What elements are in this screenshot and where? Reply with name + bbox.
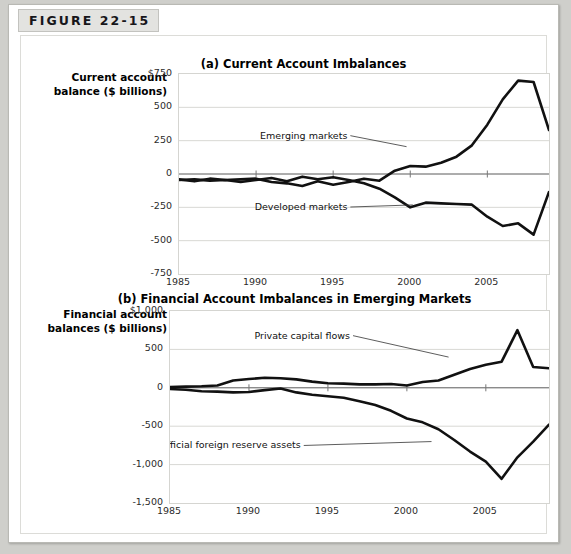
figure-inner-frame: (a) Current Account Imbalances Current a… — [20, 35, 547, 534]
chart-a-y-tick: 250 — [112, 134, 172, 145]
chart-a-x-tick: 1990 — [229, 276, 281, 287]
chart-panel-b: (b) Financial Account Imbalances in Emer… — [21, 290, 546, 533]
chart-a-x-tick: 1995 — [306, 276, 358, 287]
chart-b-x-tick: 2000 — [380, 505, 432, 516]
figure-tab: FIGURE 22-15 — [18, 9, 159, 32]
chart-b-y-tick: $1,000 — [103, 304, 163, 315]
chart-a-y-tick: -250 — [112, 200, 172, 211]
chart-b-plot-area: Private capital flowsOfficial foreign re… — [169, 310, 550, 504]
chart-a-x-tick: 2000 — [383, 276, 435, 287]
chart-a-svg: Emerging marketsDeveloped markets — [179, 74, 549, 274]
chart-b-svg: Private capital flowsOfficial foreign re… — [170, 311, 549, 503]
chart-a-title: (a) Current Account Imbalances — [21, 57, 546, 71]
chart-b-x-tick: 2005 — [459, 505, 511, 516]
chart-a-y-tick: -500 — [112, 234, 172, 245]
chart-a-plot-area: Emerging marketsDeveloped markets $75050… — [178, 73, 550, 275]
chart-b-y-tick: -1,000 — [103, 458, 163, 469]
chart-a-y-tick: 0 — [112, 167, 172, 178]
chart-b-x-tick: 1985 — [143, 505, 195, 516]
chart-a-y-tick: 500 — [112, 100, 172, 111]
chart-b-annotation: Official foreign reserve assets — [170, 439, 301, 450]
chart-b-title: (b) Financial Account Imbalances in Emer… — [21, 292, 546, 306]
chart-a-x-tick: 1985 — [152, 276, 204, 287]
chart-panel-a: (a) Current Account Imbalances Current a… — [21, 44, 546, 290]
figure-card: FIGURE 22-15 (a) Current Account Imbalan… — [8, 4, 559, 543]
figure-number-label: FIGURE 22-15 — [19, 13, 150, 28]
chart-b-x-tick: 1995 — [301, 505, 353, 516]
chart-a-annotation: Emerging markets — [260, 130, 347, 141]
chart-a-y-tick: $750 — [112, 67, 172, 78]
chart-b-y-tick: 500 — [103, 342, 163, 353]
chart-a-x-tick: 2005 — [460, 276, 512, 287]
chart-b-x-tick: 1990 — [222, 505, 274, 516]
chart-b-annotation: Private capital flows — [254, 330, 350, 341]
chart-a-annotation: Developed markets — [255, 201, 348, 212]
chart-b-y-tick: 0 — [103, 381, 163, 392]
chart-b-y-tick: -500 — [103, 419, 163, 430]
